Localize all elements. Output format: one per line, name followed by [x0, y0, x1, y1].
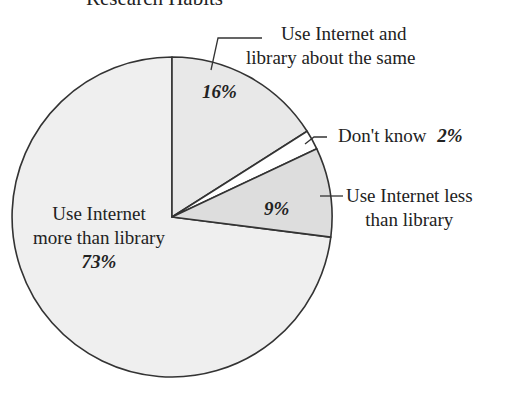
- label-more-line1: Use Internet: [24, 202, 174, 226]
- pct-about-same: 16%: [202, 80, 237, 104]
- label-about-same-line2: library about the same: [246, 46, 415, 70]
- pct-less-than-library: 9%: [264, 197, 289, 221]
- label-about-same: Use Internet and library about the same: [272, 22, 415, 70]
- label-less-than-library: Use Internet less than library: [346, 184, 473, 232]
- label-dont-know: Don't know 2%: [338, 124, 462, 148]
- pct-more-than-library: 73%: [24, 250, 174, 274]
- label-less-line1: Use Internet less: [346, 184, 473, 208]
- label-dont-know-text: Don't know: [338, 125, 426, 146]
- label-more-line2: more than library: [14, 226, 184, 250]
- pct-dont-know: 2%: [437, 125, 462, 146]
- label-more-than-library: Use Internet more than library 73%: [24, 202, 174, 274]
- label-about-same-line1: Use Internet and: [272, 22, 415, 46]
- label-less-line2: than library: [346, 208, 473, 232]
